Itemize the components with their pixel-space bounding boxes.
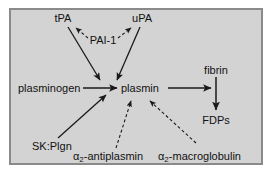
- arrow-antiplasmin-to-plasmin: [116, 101, 131, 148]
- node-alpha2-macroglobulin: α2-macroglobulin: [158, 150, 241, 162]
- node-sk-plgn: SK:Plgn: [32, 140, 72, 152]
- arrow-pai1-to-upa: [118, 28, 131, 38]
- node-tpa: tPA: [55, 12, 72, 24]
- antiplasmin-text: -antiplasmin: [84, 150, 143, 162]
- node-plasminogen: plasminogen: [18, 82, 80, 94]
- node-plasmin: plasmin: [121, 82, 159, 94]
- node-pai1: PAI-1: [90, 34, 117, 46]
- diagram-canvas: tPA uPA PAI-1 plasminogen plasmin SK:Plg…: [0, 0, 274, 176]
- alpha-subscript: 2: [164, 155, 168, 164]
- node-fdps: FDPs: [202, 114, 230, 126]
- arrow-pai1-to-tpa: [76, 28, 88, 38]
- node-alpha2-antiplasmin: α2-antiplasmin: [73, 150, 143, 162]
- arrow-macroglobulin-to-plasmin: [150, 101, 196, 143]
- node-fibrin: fibrin: [204, 64, 228, 76]
- arrow-skplgn-to-plasmin: [58, 95, 106, 138]
- arrow-upa-to-activation: [117, 27, 140, 80]
- macroglobulin-text: -macroglobulin: [169, 150, 241, 162]
- node-upa: uPA: [132, 12, 152, 24]
- alpha-subscript: 2: [79, 155, 83, 164]
